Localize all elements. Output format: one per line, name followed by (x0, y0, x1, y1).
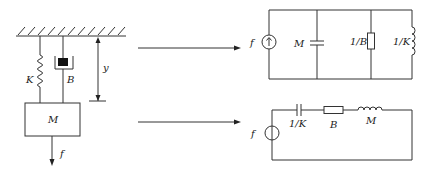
series-capacitor-label: 1/K (289, 118, 307, 129)
parallel-resistor-label: 1/B (350, 36, 367, 47)
series-capacitor-icon (297, 104, 301, 116)
series-resistor-icon (324, 107, 343, 114)
ceiling (16, 27, 126, 36)
voltage-source-icon (265, 126, 279, 140)
series-source-label: f (250, 128, 257, 139)
mass-label: M (47, 114, 59, 125)
parallel-inductor-label: 1/K (393, 36, 411, 47)
parallel-source-label: f (249, 37, 256, 48)
force-label: f (59, 148, 66, 159)
series-circuit: f 1/K B M (250, 104, 412, 160)
force-arrow-icon (50, 136, 55, 166)
mapping-arrow-bottom-icon (138, 120, 241, 125)
mapping-arrow-top-icon (138, 46, 241, 51)
inductor-icon (412, 10, 415, 79)
ceiling-hatch (18, 27, 125, 35)
series-resistor-label: B (329, 119, 337, 130)
damper-label: B (66, 74, 74, 85)
parallel-capacitor-label: M (293, 38, 305, 49)
mechanical-system: K B y M f (16, 27, 126, 166)
series-inductor-icon (358, 107, 382, 110)
spring-label: K (25, 74, 34, 85)
displacement-label: y (102, 62, 109, 73)
resistor-icon (368, 10, 375, 79)
damper-icon (55, 36, 73, 103)
analogy-diagram: K B y M f (0, 0, 427, 175)
capacitor-icon (310, 10, 324, 79)
spring-icon (38, 36, 43, 103)
series-inductor-label: M (365, 115, 377, 126)
current-source-icon (262, 35, 276, 49)
parallel-circuit: f M 1/B 1/K (249, 10, 415, 79)
